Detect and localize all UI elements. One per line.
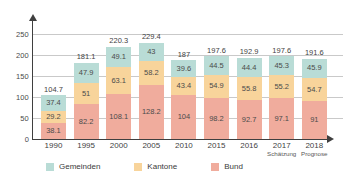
bar-2018: 191.645.954.791	[302, 59, 327, 139]
bar-total-1990: 104.7	[32, 86, 76, 94]
bar-segment-kantone-2005: 58.2	[139, 61, 164, 85]
bar-2010: 18739.643.4104	[171, 60, 196, 139]
legend-item-kantone: Kantone	[134, 162, 177, 171]
bar-segment-kantone-2016: 55.8	[237, 77, 262, 100]
bar-segment-gemeinden-1995: 47.9	[74, 63, 99, 83]
legend-swatch-gemeinden	[46, 163, 54, 171]
legend-swatch-kantone	[134, 163, 142, 171]
gridline-250	[33, 34, 343, 35]
y-axis	[32, 20, 33, 140]
bar-segment-kantone-1990: 29.2	[41, 111, 66, 123]
y-axis-arrow-icon	[29, 14, 37, 21]
y-tick-250: 250	[5, 30, 29, 39]
bar-segment-bund-2010: 104	[171, 95, 196, 139]
y-tick-100: 100	[5, 93, 29, 102]
plot-area: 104.737.429.238.1181.147.95182.2220.349.…	[33, 34, 343, 139]
bar-segment-kantone-2018: 54.7	[302, 78, 327, 101]
bar-segment-kantone-2017: 55.2	[269, 75, 294, 98]
bar-segment-kantone-2000: 63.1	[106, 67, 131, 94]
legend-item-bund: Bund	[211, 162, 243, 171]
y-tick-150: 150	[5, 72, 29, 81]
bar-segment-kantone-2010: 43.4	[171, 77, 196, 95]
bar-segment-gemeinden-2018: 45.9	[302, 59, 327, 78]
bar-1995: 181.147.95182.2	[74, 63, 99, 139]
bar-segment-gemeinden-2010: 39.6	[171, 60, 196, 77]
bar-2017: 197.645.355.297.1	[269, 56, 294, 139]
bar-2005: 229.44358.2128.2	[139, 43, 164, 139]
bar-segment-gemeinden-2000: 49.1	[106, 47, 131, 68]
y-tick-0: 0	[5, 135, 29, 144]
bar-segment-kantone-1995: 51	[74, 83, 99, 104]
bar-segment-gemeinden-2017: 45.3	[269, 56, 294, 75]
bar-2016: 192.944.455.892.7	[237, 58, 262, 139]
bar-segment-gemeinden-2005: 43	[139, 43, 164, 61]
bar-segment-gemeinden-2016: 44.4	[237, 58, 262, 77]
bar-segment-bund-2016: 92.7	[237, 100, 262, 139]
bar-segment-bund-2000: 108.1	[106, 94, 131, 139]
y-tick-50: 50	[5, 114, 29, 123]
bar-segment-bund-2017: 97.1	[269, 98, 294, 139]
bar-segment-bund-1990: 38.1	[41, 123, 66, 139]
bar-segment-bund-2018: 91	[302, 101, 327, 139]
legend-swatch-bund	[211, 163, 219, 171]
bar-total-2005: 229.4	[129, 33, 173, 41]
bar-segment-gemeinden-1990: 37.4	[41, 95, 66, 111]
x-sublabel-2018: Prognose	[289, 151, 339, 158]
bar-segment-bund-2015: 98.2	[204, 98, 229, 139]
x-axis	[32, 139, 328, 140]
legend: Gemeinden Kantone Bund	[46, 162, 277, 171]
y-tick-200: 200	[5, 51, 29, 60]
bar-segment-kantone-2015: 54.9	[204, 75, 229, 98]
x-label-2018: 2018Prognose	[289, 142, 339, 158]
bar-1990: 104.737.429.238.1	[41, 95, 66, 139]
legend-item-gemeinden: Gemeinden	[46, 162, 100, 171]
bar-2015: 197.644.554.998.2	[204, 56, 229, 139]
bar-segment-bund-2005: 128.2	[139, 85, 164, 139]
stacked-bar-chart: 250 200 150 100 50 0 104.737.429.238.118…	[0, 0, 349, 184]
bar-2000: 220.349.163.1108.1	[106, 47, 131, 140]
bar-total-1995: 181.1	[64, 53, 108, 61]
legend-label-gemeinden: Gemeinden	[59, 162, 100, 171]
bar-segment-bund-1995: 82.2	[74, 104, 99, 139]
bar-segment-gemeinden-2015: 44.5	[204, 56, 229, 75]
legend-label-kantone: Kantone	[147, 162, 177, 171]
legend-label-bund: Bund	[224, 162, 243, 171]
bar-total-2018: 191.6	[292, 49, 336, 57]
